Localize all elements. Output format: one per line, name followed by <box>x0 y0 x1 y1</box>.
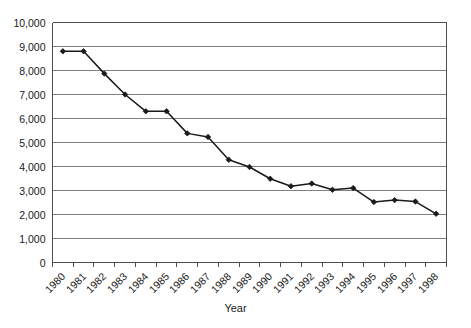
data-point-marker <box>330 187 335 192</box>
grid-lines <box>53 23 447 263</box>
data-point-marker <box>288 183 293 188</box>
y-tick-label: 3,000 <box>0 185 46 196</box>
data-markers <box>60 49 439 217</box>
y-tick-label: 9,000 <box>0 41 46 52</box>
y-tick-label: 5,000 <box>0 137 46 148</box>
y-tick-label: 0 <box>0 257 46 268</box>
y-tick-label: 1,000 <box>0 233 46 244</box>
data-point-marker <box>392 197 397 202</box>
y-tick-label: 4,000 <box>0 161 46 172</box>
y-tick-label: 2,000 <box>0 209 46 220</box>
line-chart: 01,0002,0003,0004,0005,0006,0007,0008,00… <box>0 0 471 328</box>
y-tick-label: 8,000 <box>0 65 46 76</box>
data-point-marker <box>60 49 65 54</box>
series-line <box>63 51 436 213</box>
data-point-marker <box>309 181 314 186</box>
x-axis-title: Year <box>0 302 471 314</box>
y-tick-label: 10,000 <box>0 17 46 28</box>
y-tick-label: 7,000 <box>0 89 46 100</box>
data-series <box>63 51 436 213</box>
y-tick-label: 6,000 <box>0 113 46 124</box>
